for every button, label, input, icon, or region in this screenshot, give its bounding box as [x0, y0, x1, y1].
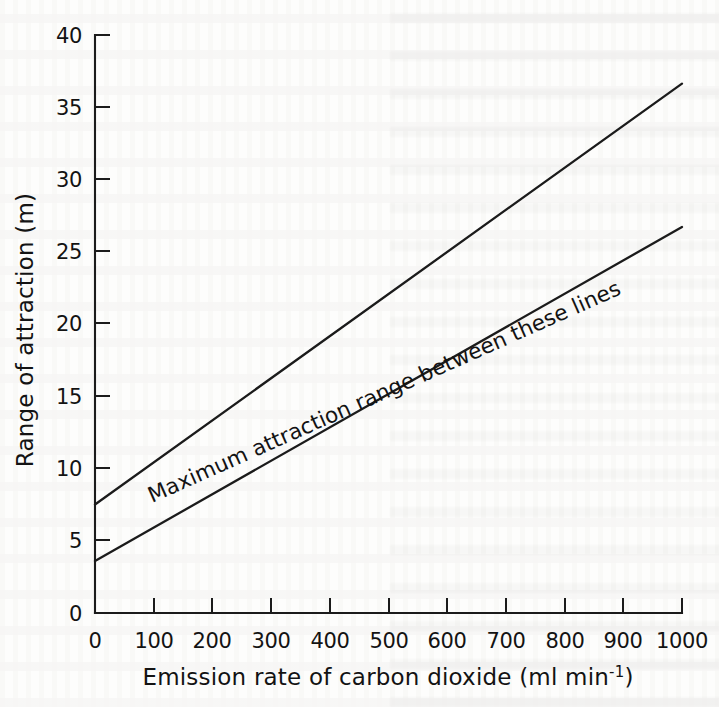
x-tick-label: 0 — [88, 629, 101, 653]
x-tick-label: 500 — [369, 629, 408, 653]
band-annotation-label: Maximum attraction range between these l… — [144, 275, 624, 507]
y-tick-label: 10 — [56, 457, 82, 481]
y-tick-label: 25 — [56, 240, 82, 264]
x-axis-label: Emission rate of carbon dioxide (ml min-… — [142, 663, 633, 690]
x-tick-labels: 0 100 200 300 400 500 600 700 800 900 10… — [88, 629, 708, 653]
y-tick-label: 15 — [56, 385, 82, 409]
line-chart: 40 35 30 25 20 15 10 5 0 0 100 200 300 4… — [0, 0, 719, 707]
y-tick-label: 35 — [56, 96, 82, 120]
x-tick-label: 1000 — [656, 629, 708, 653]
y-tick-label: 20 — [56, 312, 82, 336]
figure-page: 40 35 30 25 20 15 10 5 0 0 100 200 300 4… — [0, 0, 719, 707]
x-tick-label: 900 — [603, 629, 642, 653]
x-tick-label: 400 — [310, 629, 349, 653]
x-axis-label-tail: ) — [624, 664, 633, 690]
x-tick-label: 600 — [427, 629, 466, 653]
y-tick-label: 40 — [56, 24, 82, 48]
x-tick-label: 700 — [486, 629, 525, 653]
y-tick-label: 30 — [56, 168, 82, 192]
y-axis-label: Range of attraction (m) — [12, 193, 38, 467]
x-axis-ticks — [95, 598, 682, 613]
x-tick-label: 800 — [545, 629, 584, 653]
y-tick-label: 5 — [69, 529, 82, 553]
y-tick-labels: 40 35 30 25 20 15 10 5 0 — [56, 24, 82, 626]
x-tick-label: 100 — [134, 629, 173, 653]
x-tick-label: 300 — [251, 629, 290, 653]
y-axis-ticks — [95, 35, 110, 613]
x-axis-label-superscript: -1 — [609, 663, 624, 681]
x-tick-label: 200 — [192, 629, 231, 653]
y-tick-label: 0 — [69, 602, 82, 626]
x-axis-label-main: Emission rate of carbon dioxide (ml min — [142, 664, 609, 690]
